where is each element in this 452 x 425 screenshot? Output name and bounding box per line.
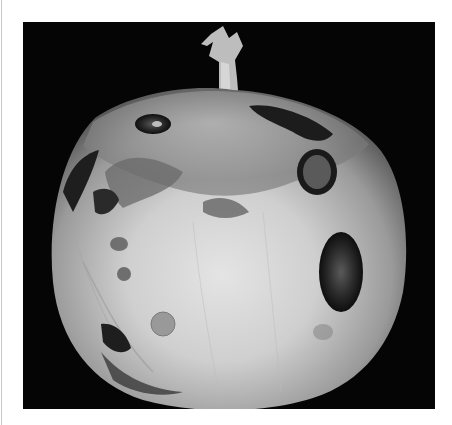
- spot: [313, 324, 333, 340]
- lesion-center: [303, 155, 331, 189]
- lesion-highlight: [152, 121, 162, 127]
- spot: [151, 312, 175, 336]
- lesion-scab: [110, 237, 128, 251]
- photo-panel: [23, 22, 435, 409]
- spot: [117, 267, 131, 281]
- onion-illustration: [23, 22, 435, 409]
- left-edge-line: [1, 0, 2, 425]
- lesion: [319, 232, 363, 312]
